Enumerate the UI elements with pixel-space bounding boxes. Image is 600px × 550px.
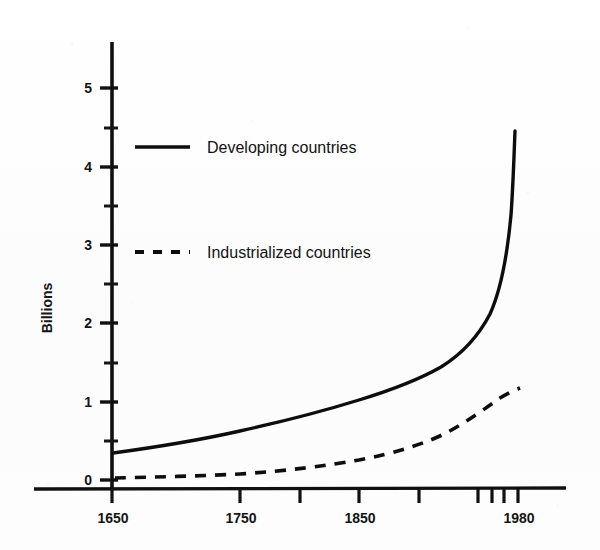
- x-tick-label-1750: 1750: [225, 510, 256, 526]
- axis-group: [34, 42, 566, 489]
- y-tick-label-4: 4: [84, 159, 92, 175]
- y-axis-title: Billions: [39, 283, 55, 334]
- x-tick-label-1650: 1650: [97, 510, 128, 526]
- legend-item-developing-countries: Developing countries: [135, 139, 356, 156]
- chart-legend: Developing countries Industrialized coun…: [135, 139, 371, 261]
- x-tick-label-1850: 1850: [344, 510, 375, 526]
- series-line-developing-countries: [113, 131, 515, 453]
- x-tick-labels: 1650 1750 1850 1980: [97, 510, 534, 526]
- series-line-industrialized-countries: [115, 388, 520, 478]
- y-tick-label-2: 2: [84, 315, 92, 331]
- legend-label-developing-countries: Developing countries: [207, 139, 356, 156]
- y-tick-label-1: 1: [84, 394, 92, 410]
- legend-item-industrialized-countries: Industrialized countries: [135, 244, 371, 261]
- y-tick-label-5: 5: [84, 80, 92, 96]
- chart-plot-area: 5 4 3 2 1 0 Billions 1650 1750 1850 1980: [0, 0, 600, 550]
- y-tick-marks: [100, 88, 118, 480]
- y-tick-label-3: 3: [84, 237, 92, 253]
- y-tick-label-0: 0: [84, 472, 92, 488]
- x-tick-label-1980: 1980: [503, 510, 534, 526]
- population-growth-chart: 5 4 3 2 1 0 Billions 1650 1750 1850 1980: [0, 0, 600, 550]
- y-tick-labels: 5 4 3 2 1 0: [84, 80, 92, 488]
- legend-label-industrialized-countries: Industrialized countries: [207, 244, 371, 261]
